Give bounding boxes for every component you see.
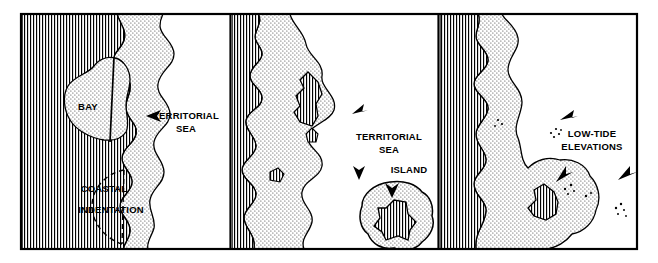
island-label: ISLAND	[391, 164, 428, 175]
panel-low-tide: LOW-TIDE ELEVATIONS	[440, 14, 637, 249]
coastal-indentation-label-line2: INDENTATION	[78, 204, 144, 215]
low-tide-elevations-label-line1: LOW-TIDE	[568, 128, 616, 139]
low-tide-elevations-label-line2: ELEVATIONS	[561, 141, 622, 152]
territorial-sea-label-line1: TERRITORIAL	[153, 110, 219, 121]
bay-label: BAY	[78, 101, 98, 112]
territorial-sea-label-line2: SEA	[176, 123, 196, 134]
figure-canvas: BAY TERRITORIAL SEA COASTAL INDENTATION	[0, 0, 658, 263]
panel-island: TERRITORIAL SEA ISLAND	[232, 14, 436, 250]
territorial-sea-figure: BAY TERRITORIAL SEA COASTAL INDENTATION	[0, 0, 658, 263]
coastal-indentation-label-line1: COASTAL	[81, 183, 128, 194]
panel-bay: BAY TERRITORIAL SEA COASTAL INDENTATION	[22, 14, 228, 249]
territorial-sea-label-line1: TERRITORIAL	[356, 131, 422, 142]
territorial-sea-label-line2: SEA	[379, 144, 399, 155]
